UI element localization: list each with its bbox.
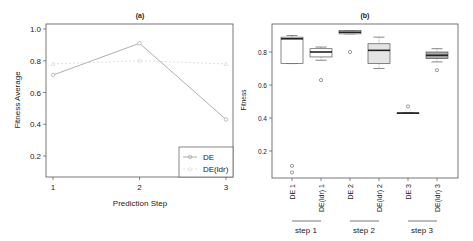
group-step2-label: step 2 [353, 226, 375, 235]
plot-a-y-label: Fitness Average [13, 71, 22, 129]
box-de-ldr-3 [426, 49, 448, 72]
plot-a-series [51, 41, 228, 121]
plot-b: (b) 0.20.40.60.8 Fitness DE 1DE(ldr) 1DE… [240, 12, 458, 235]
x-tick-label: DE(ldr) 1 [318, 184, 326, 212]
outlier-point [290, 171, 293, 174]
plot-a-x-label: Prediction Step [113, 199, 168, 208]
legend-deldr-label: DE(ldr) [203, 165, 229, 174]
x-tick-label: 1 [51, 183, 56, 192]
series-line-0 [53, 43, 226, 119]
outlier-point [348, 50, 351, 53]
box-de-1 [281, 36, 303, 175]
box-de-ldr-1 [310, 47, 332, 82]
box-de-2 [339, 31, 361, 54]
plot-a-title: (a) [136, 12, 145, 20]
outlier-point [319, 78, 322, 81]
y-tick-label: 0.6 [258, 82, 267, 89]
plot-b-x-axis: DE 1DE(ldr) 1DE 2DE(ldr) 2DE 3DE(ldr) 3 [289, 178, 442, 212]
outlier-point [435, 69, 438, 72]
data-point [51, 73, 55, 77]
x-tick-label: DE 2 [347, 184, 354, 200]
legend-de-label: DE [203, 153, 214, 162]
x-tick-label: DE 1 [289, 184, 296, 200]
y-tick-label: 0.2 [30, 152, 42, 161]
y-tick-label: 0.2 [258, 148, 267, 155]
y-tick-label: 0.4 [30, 120, 42, 129]
group-labels: step 1 step 2 step 3 [292, 221, 437, 235]
box-body [281, 37, 303, 63]
y-tick-label: 0.8 [258, 49, 267, 56]
plot-b-title: (b) [361, 12, 370, 20]
group-step3-label: step 3 [411, 226, 433, 235]
outlier-point [406, 105, 409, 108]
plot-b-y-label: Fitness [240, 89, 247, 111]
box-body [368, 44, 390, 64]
y-tick-label: 1.0 [30, 25, 42, 34]
x-tick-label: DE 3 [405, 184, 412, 200]
data-point [138, 41, 142, 45]
plot-a-x-axis: 123 [51, 177, 229, 192]
data-point [224, 118, 228, 122]
box-de-ldr-2 [368, 37, 390, 68]
y-tick-label: 0.8 [30, 57, 42, 66]
box-body [310, 49, 332, 57]
plot-a: (a) 0.20.40.60.81.0 123 Prediction Step … [13, 12, 233, 208]
x-tick-label: DE(ldr) 3 [434, 184, 442, 212]
y-tick-label: 0.4 [258, 115, 267, 122]
y-tick-label: 0.6 [30, 89, 42, 98]
x-tick-label: 3 [224, 183, 229, 192]
plot-b-y-axis: 0.20.40.60.8 [258, 49, 272, 155]
figure: (a) 0.20.40.60.81.0 123 Prediction Step … [0, 0, 473, 241]
x-tick-label: 2 [137, 183, 142, 192]
plot-a-y-axis: 0.20.40.60.81.0 [30, 25, 46, 161]
box-de-3 [397, 105, 419, 114]
group-step1-label: step 1 [295, 226, 317, 235]
x-tick-label: DE(ldr) 2 [376, 184, 384, 212]
outlier-point [290, 164, 293, 167]
plot-b-boxes [281, 31, 448, 174]
legend: DE DE(ldr) [179, 147, 233, 177]
